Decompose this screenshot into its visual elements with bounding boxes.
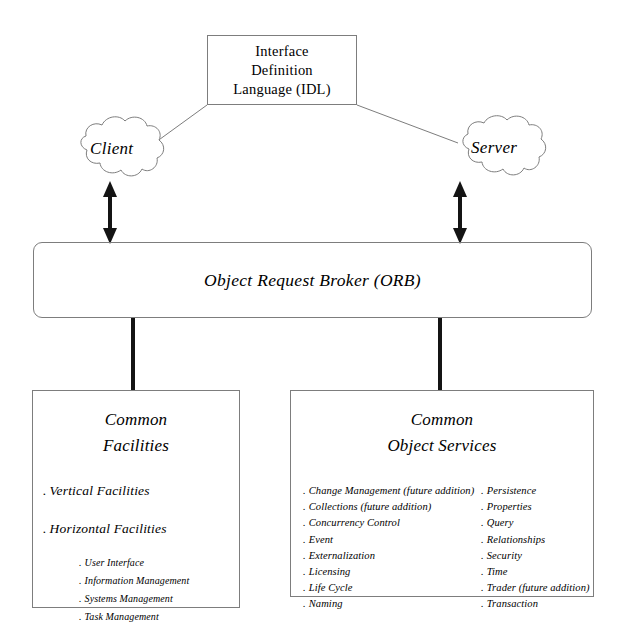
list-item-label: Query [487,517,514,528]
list-item-label: Task Management [85,611,159,622]
common-facilities-title: Common Facilities [33,407,239,459]
list-item-label: Licensing [309,566,351,577]
list-item-label: Externalization [309,550,375,561]
common-facilities-sub-list: .User Interface .Information Management … [79,554,239,626]
idl-line-2: Definition [251,61,313,80]
list-item: .Trader (future addition) [481,580,591,596]
list-item: .Horizontal Facilities [43,521,239,537]
bullet-dot: . [79,557,82,568]
bullet-dot: . [303,598,306,609]
client-label: Client [90,139,133,159]
list-item-label: Time [487,566,508,577]
bullet-dot: . [303,485,306,496]
common-object-services-box: Common Object Services .Change Managemen… [290,390,594,597]
list-item-label: Transaction [487,598,538,609]
list-item: .Concurrency Control [303,515,481,531]
idl-client-connector-line [156,105,207,142]
common-object-services-title-line-2: Object Services [291,433,593,459]
client-orb-double-arrow [103,181,117,244]
list-item-label: Concurrency Control [309,517,400,528]
list-item: .Collections (future addition) [303,499,481,515]
bullet-dot: . [79,611,82,622]
list-item: .Information Management [79,572,239,590]
corba-architecture-diagram: Interface Definition Language (IDL) Clie… [0,0,620,634]
bullet-dot: . [481,517,484,528]
bullet-dot: . [303,517,306,528]
list-item: .Externalization [303,548,481,564]
common-facilities-title-line-2: Facilities [33,433,239,459]
idl-box: Interface Definition Language (IDL) [207,35,357,105]
list-item-label: User Interface [85,557,144,568]
bullet-dot: . [481,598,484,609]
list-item-label: Naming [309,598,343,609]
list-item: .Event [303,532,481,548]
bullet-dot: . [79,575,82,586]
bullet-dot: . [481,501,484,512]
common-facilities-title-line-1: Common [33,407,239,433]
common-facilities-major-list: .Vertical Facilities .Horizontal Facilit… [33,483,239,537]
bullet-dot: . [481,550,484,561]
list-item: .Licensing [303,564,481,580]
list-item-label: Life Cycle [309,582,353,593]
list-item: .Change Management (future addition) [303,483,481,499]
common-object-services-lists: .Change Management (future addition) .Co… [291,483,593,613]
list-item: .Naming [303,596,481,612]
list-item-label: Systems Management [85,593,173,604]
list-item-label: Vertical Facilities [50,483,150,498]
bullet-dot: . [481,534,484,545]
list-item: .Relationships [481,532,591,548]
list-item: .Life Cycle [303,580,481,596]
list-item-label: Collections (future addition) [309,501,432,512]
list-item: .Transaction [481,596,591,612]
list-item-label: Horizontal Facilities [50,521,167,536]
list-item: .Security [481,548,591,564]
idl-server-connector-line [357,105,458,143]
list-item-label: Properties [487,501,532,512]
bullet-dot: . [481,582,484,593]
bullet-dot: . [43,483,47,498]
list-item: .Time [481,564,591,580]
list-item: .Task Management [79,608,239,626]
bullet-dot: . [303,582,306,593]
idl-line-1: Interface [255,42,308,61]
server-label: Server [471,138,517,158]
common-object-services-title-line-1: Common [291,407,593,433]
bullet-dot: . [481,485,484,496]
list-item-label: Trader (future addition) [487,582,590,593]
list-item: .Persistence [481,483,591,499]
list-item-label: Event [309,534,333,545]
bullet-dot: . [303,501,306,512]
common-object-services-title: Common Object Services [291,407,593,459]
idl-line-3: Language (IDL) [233,80,330,99]
bullet-dot: . [303,534,306,545]
orb-label: Object Request Broker (ORB) [204,270,421,291]
server-orb-double-arrow [453,181,467,244]
common-object-services-right-column: .Persistence .Properties .Query .Relatio… [481,483,591,613]
list-item-label: Persistence [487,485,537,496]
list-item-label: Security [487,550,522,561]
common-facilities-box: Common Facilities .Vertical Facilities .… [32,390,240,608]
bullet-dot: . [481,566,484,577]
list-item: .Query [481,515,591,531]
bullet-dot: . [303,550,306,561]
list-item-label: Change Management (future addition) [309,485,475,496]
list-item: .Systems Management [79,590,239,608]
list-item: .User Interface [79,554,239,572]
list-item-label: Relationships [487,534,545,545]
list-item-label: Information Management [85,575,190,586]
object-request-broker-box: Object Request Broker (ORB) [33,242,592,318]
bullet-dot: . [43,521,47,536]
common-object-services-left-column: .Change Management (future addition) .Co… [303,483,481,613]
list-item: .Vertical Facilities [43,483,239,499]
bullet-dot: . [303,566,306,577]
list-item: .Properties [481,499,591,515]
bullet-dot: . [79,593,82,604]
